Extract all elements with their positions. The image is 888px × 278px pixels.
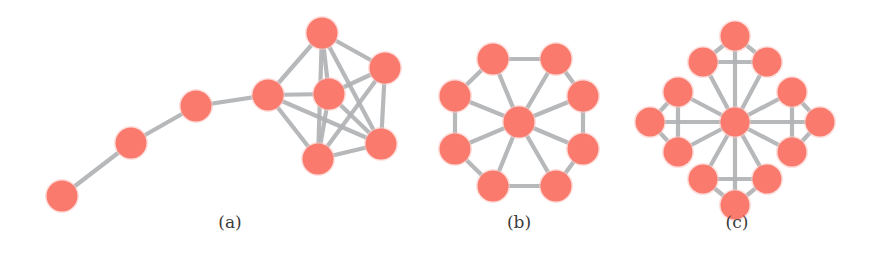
graph-node[interactable] <box>370 53 401 84</box>
graph-node[interactable] <box>721 22 750 51</box>
captions-layer: (a)(b)(c) <box>218 212 748 232</box>
graph-node[interactable] <box>366 129 397 160</box>
graph-node[interactable] <box>504 107 535 138</box>
panel-caption-c: (c) <box>726 212 749 232</box>
graph-node[interactable] <box>307 18 338 49</box>
graph-node[interactable] <box>806 108 835 137</box>
panel-b-nodes <box>438 42 600 203</box>
panel-a-edges <box>62 33 385 196</box>
figure-container: (a)(b)(c) <box>0 0 888 278</box>
graph-node[interactable] <box>47 181 78 212</box>
graph-node[interactable] <box>541 44 572 75</box>
graph-node[interactable] <box>314 79 345 110</box>
graph-node[interactable] <box>116 128 147 159</box>
network-graphs-svg: (a)(b)(c) <box>0 0 888 278</box>
graph-node[interactable] <box>753 165 782 194</box>
graph-node[interactable] <box>541 171 572 202</box>
graph-node[interactable] <box>303 144 334 175</box>
graph-node[interactable] <box>636 108 665 137</box>
graph-node[interactable] <box>568 134 599 165</box>
graph-node[interactable] <box>253 80 284 111</box>
graph-node[interactable] <box>440 81 471 112</box>
panel-caption-b: (b) <box>507 212 531 232</box>
graph-node[interactable] <box>778 138 807 167</box>
graph-node[interactable] <box>689 165 718 194</box>
graph-node[interactable] <box>721 108 750 137</box>
graph-node[interactable] <box>181 91 212 122</box>
graph-node[interactable] <box>478 44 509 75</box>
graph-node[interactable] <box>664 138 693 167</box>
graph-node[interactable] <box>689 48 718 77</box>
graph-node[interactable] <box>664 78 693 107</box>
graph-node[interactable] <box>568 81 599 112</box>
graph-node[interactable] <box>753 48 782 77</box>
panel-caption-a: (a) <box>218 212 241 232</box>
graph-node[interactable] <box>440 134 471 165</box>
panel-c-nodes <box>634 20 836 221</box>
graph-node[interactable] <box>478 171 509 202</box>
graph-node[interactable] <box>778 78 807 107</box>
